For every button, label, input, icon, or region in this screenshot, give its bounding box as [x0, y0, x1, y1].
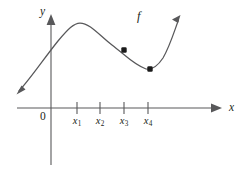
tick-label-x2: x2 — [96, 116, 105, 128]
y-axis-arrow-icon — [47, 14, 56, 25]
tick-label-x4: x4 — [144, 116, 153, 128]
y-axis — [47, 14, 56, 165]
curve-points — [121, 47, 152, 71]
tick-label-x3: x3 — [120, 116, 129, 128]
function-curve — [19, 20, 179, 91]
curve-start-arrow-icon — [17, 86, 26, 95]
coordinate-plot — [0, 0, 245, 177]
x-axis-label: x — [229, 102, 234, 114]
function-curve-group — [17, 15, 181, 95]
x-axis-arrow-icon — [211, 104, 222, 113]
tick-label-x1: x1 — [73, 116, 82, 128]
x-axis — [17, 104, 222, 113]
curve-end-arrow-icon — [172, 15, 181, 23]
y-axis-label: y — [40, 6, 45, 18]
curve-point-minimum — [147, 66, 152, 71]
graph-figure: y x 0 f x1 x2 x3 x4 — [0, 0, 245, 177]
curve-point-inflection — [121, 47, 126, 52]
origin-label: 0 — [40, 111, 46, 123]
function-label: f — [137, 10, 140, 23]
